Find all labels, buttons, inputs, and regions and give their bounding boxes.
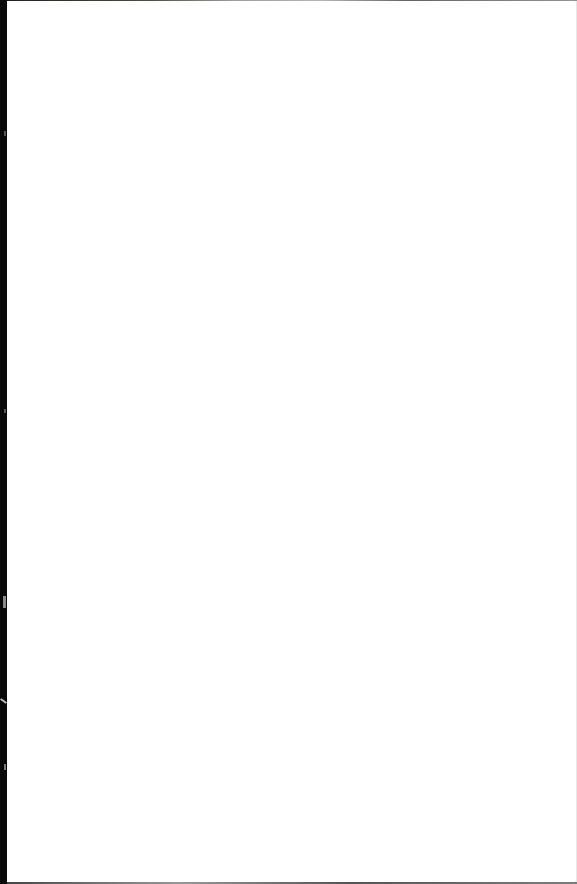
edge-artifact (4, 764, 6, 770)
edge-artifact (4, 131, 6, 136)
edge-artifact (4, 409, 6, 413)
edge-artifact (3, 596, 6, 608)
blank-page (7, 1, 577, 882)
scanned-document (0, 0, 577, 884)
edge-artifact (0, 698, 7, 704)
